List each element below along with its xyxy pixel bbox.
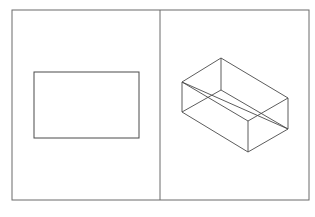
diagram-canvas (0, 0, 315, 217)
left-panel (34, 72, 139, 138)
wireframe-box (182, 58, 288, 152)
flat-rectangle (34, 72, 139, 138)
right-panel (182, 58, 288, 152)
